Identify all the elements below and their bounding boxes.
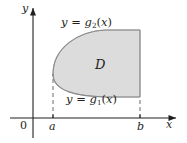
label-g1-subscript: 1 [97,98,102,107]
label-g1-close: ) [113,92,118,106]
label-tick-a: a [49,121,56,132]
label-region-D: D [95,58,105,71]
label-curve-g2: y = g2(x) [61,17,112,29]
label-g2-subscript: 2 [92,21,97,30]
label-g2-close: ) [108,15,113,29]
label-y-axis: y [22,3,28,14]
y-axis-arrowhead [30,8,36,16]
label-origin: 0 [20,120,27,131]
label-x-axis: x [166,119,172,130]
label-g2-text: y = g [61,15,92,29]
figure-region-between-curves: y = g2(x) y = g1(x) D y x 0 a b [0,0,187,143]
label-tick-b: b [137,121,144,132]
label-g1-text: y = g [66,92,97,106]
label-curve-g1: y = g1(x) [66,94,117,106]
